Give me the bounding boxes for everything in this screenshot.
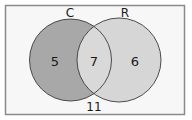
- set-r-only-count: 6: [131, 54, 139, 69]
- set-c-only-count: 5: [51, 54, 59, 69]
- set-r-label: R: [121, 6, 129, 20]
- venn-diagram: C R 5 7 6 11: [0, 0, 192, 120]
- intersection-count: 7: [90, 54, 98, 69]
- outside-count: 11: [86, 100, 101, 114]
- set-c-label: C: [66, 6, 74, 20]
